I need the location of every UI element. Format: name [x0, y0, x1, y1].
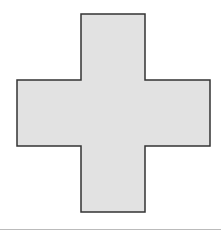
cross-shape: [17, 14, 210, 212]
cross-diagram: [0, 0, 221, 231]
